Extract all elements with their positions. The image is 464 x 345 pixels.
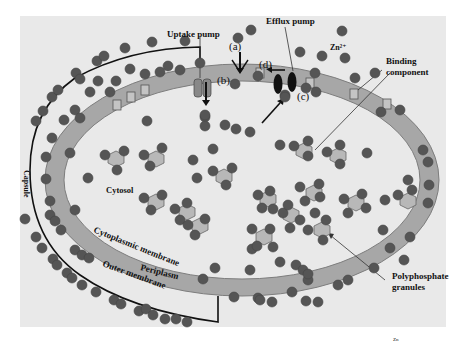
label-cytosol: Cytosol: [106, 185, 134, 195]
marker-a: (a): [229, 40, 242, 53]
label-uptake-pump: Uptake pump: [167, 29, 220, 39]
label-polyphosphate-1: Polyphosphate: [392, 271, 449, 281]
cytosol-area: [64, 81, 420, 279]
label-polyphosphate-2: granules: [392, 282, 426, 292]
marker-c: (c): [297, 90, 310, 103]
label-capsule: Capsule: [22, 170, 31, 198]
label-efflux-pump: Efflux pump: [266, 16, 315, 26]
footnote-zn: Zn: [393, 337, 399, 342]
marker-b: (b): [217, 74, 230, 87]
label-binding-component-1: Binding: [386, 56, 417, 66]
cell-diagram: Uptake pump Efflux pump Zn²⁺ Binding com…: [0, 0, 464, 345]
marker-d: (d): [259, 58, 272, 71]
label-zinc-ion: Zn²⁺: [330, 43, 346, 52]
label-binding-component-2: component: [386, 67, 429, 77]
